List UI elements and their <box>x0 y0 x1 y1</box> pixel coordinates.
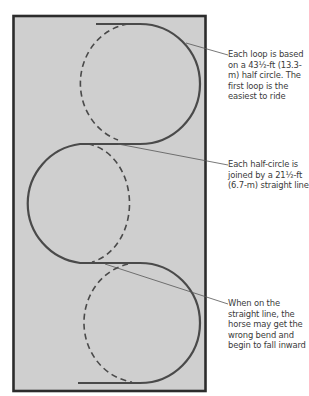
callout-wrong-bend: When on the straight line, the horse may… <box>228 298 309 351</box>
callout-straight-line: Each half-circle is joined by a 21½-ft (… <box>228 159 309 191</box>
callout-loop-size: Each loop is based on a 43½-ft (13.3-m) … <box>228 49 309 102</box>
arena <box>14 16 206 391</box>
